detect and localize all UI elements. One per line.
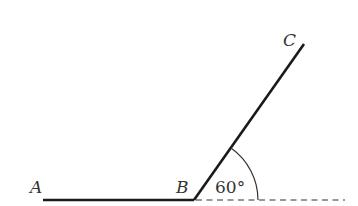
segment-bc <box>194 44 304 200</box>
label-c: C <box>283 30 296 50</box>
angle-label: 60° <box>215 177 245 197</box>
label-b: B <box>175 177 189 197</box>
angle-diagram: A B C 60° <box>0 0 358 206</box>
label-a: A <box>28 177 42 197</box>
